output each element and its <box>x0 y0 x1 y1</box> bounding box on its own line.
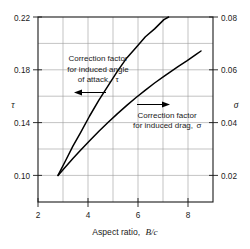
left-tick-label-0.22: 0.22 <box>14 14 30 23</box>
right-tick-label-0.06: 0.06 <box>221 66 237 75</box>
right-tick-label-0.02: 0.02 <box>221 172 237 181</box>
right-tick-label-0.08: 0.08 <box>221 14 237 23</box>
x-tick-label-8: 8 <box>186 211 191 220</box>
left-tick-label-0.14: 0.14 <box>14 119 30 128</box>
left-tick-label-0.18: 0.18 <box>14 66 30 75</box>
tau-annotation-line-1: Correction factor <box>68 54 127 63</box>
x-axis-title-text: Aspect ratio, <box>92 227 140 237</box>
x-tick-label-2: 2 <box>36 211 41 220</box>
tau-annotation-line-2: for induced angle <box>67 65 129 74</box>
sigma-annotation-line-2: for induced drag, <box>133 121 193 130</box>
tau-annotation-line-3: of attack, <box>78 75 110 84</box>
sigma-annotation-line-1: Correction factor <box>137 111 196 120</box>
x-tick-label-6: 6 <box>136 211 141 220</box>
sigma-annotation-symbol: σ <box>197 121 202 130</box>
x-axis-title-symbol: B/c <box>145 227 157 237</box>
left-axis-symbol-tau: τ <box>11 100 15 110</box>
right-tick-label-0.04: 0.04 <box>221 119 237 128</box>
left-tick-label-0.10: 0.10 <box>14 172 30 181</box>
x-tick-label-4: 4 <box>86 211 91 220</box>
x-axis-title: Aspect ratio, B/c <box>92 227 157 237</box>
right-axis-symbol-sigma: σ <box>234 100 239 110</box>
chart-figure: 0.22 0.18 0.14 0.10 0.08 0.06 0.04 0.02 … <box>0 0 250 249</box>
